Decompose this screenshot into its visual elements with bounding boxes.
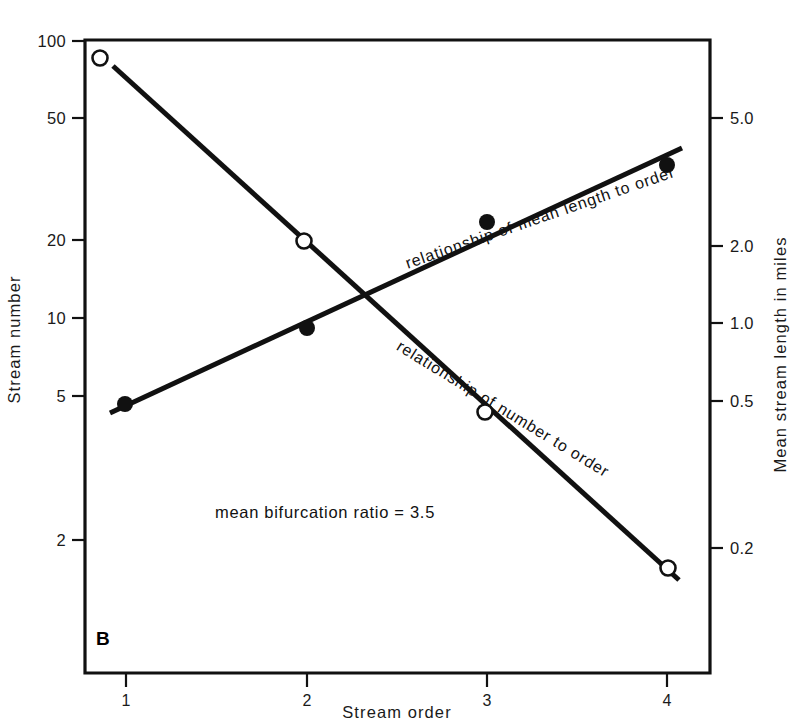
figure-panel-b: 100 50 20 10 5 2 5.0 2.0 1.0 0.5 0.2 1 2…	[0, 0, 806, 727]
panel-label: B	[96, 628, 110, 650]
right-axis-title: Mean stream length in miles	[771, 236, 790, 472]
right-tick-label-1-0: 1.0	[730, 314, 754, 333]
bottom-axis-title: Stream order	[342, 703, 452, 722]
bottom-tick-label-1: 1	[121, 692, 130, 710]
left-tick-label-100: 100	[10, 32, 66, 51]
left-tick-label-50: 50	[10, 109, 66, 128]
left-axis-title: Stream number	[5, 275, 24, 403]
right-tick-label-5-0: 5.0	[730, 109, 754, 128]
bottom-tick-label-2: 2	[302, 692, 311, 710]
left-tick-label-2: 2	[10, 531, 66, 550]
annotation-mean-bifurcation-ratio: mean bifurcation ratio = 3.5	[215, 503, 435, 522]
bottom-axis-ticks	[126, 673, 667, 687]
bottom-tick-label-4: 4	[662, 692, 671, 710]
bottom-tick-label-3: 3	[482, 692, 491, 710]
left-axis-ticks	[72, 41, 85, 540]
right-tick-label-0-5: 0.5	[730, 392, 754, 411]
right-axis-ticks	[710, 118, 723, 548]
left-tick-label-20: 20	[10, 231, 66, 250]
plot-frame	[85, 40, 710, 673]
right-tick-label-2-0: 2.0	[730, 237, 754, 256]
chart-canvas	[0, 0, 806, 727]
right-tick-label-0-2: 0.2	[730, 539, 754, 558]
